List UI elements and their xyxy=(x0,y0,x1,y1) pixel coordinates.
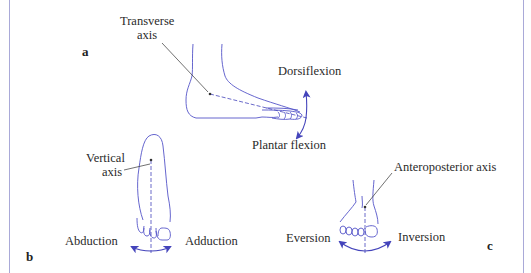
panel-letter-b: b xyxy=(26,249,33,265)
foot-axes-diagram xyxy=(0,0,531,273)
vertical-axis-point xyxy=(150,159,153,162)
abduction-arrow xyxy=(132,247,151,251)
transverse-axis-label-line1: Transverse xyxy=(120,14,174,28)
panel-c-foot-anterior xyxy=(340,180,378,237)
adduction-label: Adduction xyxy=(185,234,238,248)
figure-frame: a Transverse axis Dorsiflexion Plantar f… xyxy=(0,0,531,273)
inversion-label: Inversion xyxy=(398,230,445,244)
plantar-flexion-arrow xyxy=(297,118,306,138)
transverse-axis-point xyxy=(209,93,212,96)
transverse-axis-leader xyxy=(162,43,208,92)
dorsiflexion-label: Dorsiflexion xyxy=(278,64,341,78)
abduction-label: Abduction xyxy=(65,234,118,248)
dorsiflexion-arrow xyxy=(306,92,307,118)
plantar-flexion-label: Plantar flexion xyxy=(252,138,326,152)
anteroposterior-axis-label: Anteroposterior axis xyxy=(394,160,496,174)
panel-b-foot-dorsal xyxy=(137,134,170,240)
transverse-axis-label-line2: axis xyxy=(137,28,157,42)
vertical-axis-leader xyxy=(124,164,150,170)
transverse-axis-line xyxy=(210,94,307,118)
vertical-axis-label-line1: Vertical xyxy=(86,151,125,165)
eversion-arrow xyxy=(340,242,365,251)
panel-letter-c: c xyxy=(487,238,493,254)
panel-a-foot-lateral xyxy=(186,44,302,119)
vertical-axis-label-line2: axis xyxy=(102,165,122,179)
inversion-arrow xyxy=(365,242,390,251)
anteroposterior-axis-leader xyxy=(366,173,392,205)
anteroposterior-axis-point xyxy=(364,206,367,209)
adduction-arrow xyxy=(151,247,170,251)
eversion-label: Eversion xyxy=(286,231,330,245)
panel-letter-a: a xyxy=(82,44,89,60)
